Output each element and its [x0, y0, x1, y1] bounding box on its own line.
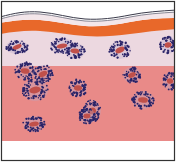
- tissue-diagram: [0, 0, 177, 163]
- diagram-canvas: [0, 0, 177, 163]
- cell-cluster: [68, 79, 87, 98]
